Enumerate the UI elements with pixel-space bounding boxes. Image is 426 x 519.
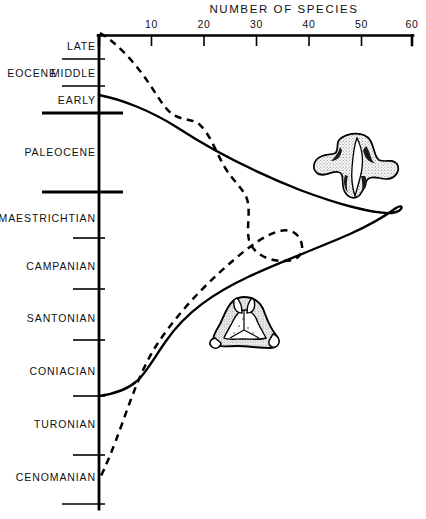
chart-title: NUMBER OF SPECIES	[209, 3, 358, 15]
time-axis-label-maestrichtian: MAESTRICHTIAN	[0, 212, 96, 224]
time-axis: LATE MIDDLE EARLY PALEOCENE MAESTRICHTIA…	[0, 36, 123, 510]
time-axis-label-coniacian: CONIACIAN	[30, 365, 96, 377]
time-axis-label-turonian: TURONIAN	[34, 418, 96, 430]
dashed-curve	[100, 33, 302, 478]
top-axis-tick-label-60: 60	[406, 18, 419, 30]
time-axis-label-early: EARLY	[58, 94, 96, 106]
top-axis-tick-label-10: 10	[145, 18, 158, 30]
top-axis-tick-label-50: 50	[355, 18, 368, 30]
species-diversity-figure: 10 20 30 40 50 60 NUMBER OF SPECIES	[0, 0, 426, 519]
dashed-curve-path	[100, 33, 302, 478]
top-axis-tick-label-40: 40	[303, 18, 316, 30]
time-axis-label-cenomanian: CENOMANIAN	[16, 471, 96, 483]
time-axis-label-eocene: EOCENE	[7, 67, 57, 79]
time-axis-label-late: LATE	[67, 40, 96, 52]
chart-canvas: 10 20 30 40 50 60 NUMBER OF SPECIES	[0, 0, 426, 519]
time-axis-label-santonian: SANTONIAN	[27, 312, 96, 324]
time-axis-label-campanian: CAMPANIAN	[26, 260, 96, 272]
top-axis-tick-label-20: 20	[198, 18, 211, 30]
fossil-lower	[210, 297, 279, 348]
top-axis: 10 20 30 40 50 60 NUMBER OF SPECIES	[98, 3, 418, 46]
time-axis-label-paleocene: PALEOCENE	[24, 146, 96, 158]
top-axis-tick-label-30: 30	[250, 18, 263, 30]
fossil-upper	[314, 134, 398, 198]
time-axis-label-middle: MIDDLE	[51, 67, 96, 79]
